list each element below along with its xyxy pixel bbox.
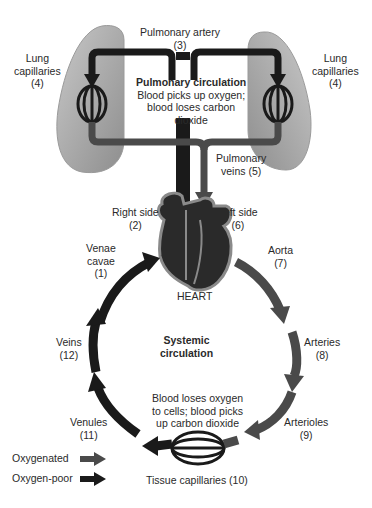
label-pulmonary-artery: Pulmonary artery (3) [140, 26, 220, 51]
label-number: (2) [112, 219, 159, 232]
systemic-heading-line: circulation [160, 347, 213, 360]
legend-oxygen-poor-arrow-icon [80, 472, 106, 486]
label-lung-capillaries-left: Lung capillaries (4) [14, 52, 61, 90]
arrow-arterioles-icon [244, 420, 260, 440]
label-arteries: Arteries (8) [304, 336, 340, 361]
systemic-circulation-caption: Blood loses oxygen to cells; blood picks… [152, 392, 243, 430]
label-aorta: Aorta (7) [268, 244, 293, 269]
pulmonary-description-line: dioxide [136, 114, 246, 127]
label-text: capillaries [312, 65, 359, 78]
label-text: Venae [86, 242, 116, 255]
label-number: (6) [218, 219, 258, 232]
systemic-circulation-heading: Systemic circulation [160, 334, 213, 359]
systemic-description-line: Blood loses oxygen [152, 392, 243, 405]
heart-label: HEART [177, 290, 212, 303]
label-text: Pulmonary artery [140, 26, 220, 39]
legend-oxygenated-arrow-icon [80, 452, 106, 466]
label-text: cavae [86, 255, 116, 268]
label-text: Venules [70, 416, 107, 429]
label-venules: Venules (11) [70, 416, 107, 441]
label-number: (1) [86, 267, 116, 280]
label-lung-capillaries-right: Lung capillaries (4) [312, 52, 359, 90]
label-number: (3) [140, 39, 220, 52]
label-number: (8) [304, 349, 340, 362]
legend-label: Oxygenated [12, 452, 69, 464]
legend-oxygenated: Oxygenated [12, 452, 69, 464]
label-text: Lung [312, 52, 359, 65]
left-lung-icon [57, 26, 124, 173]
legend-oxygen-poor: Oxygen-poor [12, 472, 73, 484]
arrow-venules-icon [142, 436, 158, 456]
label-text: Arterioles [284, 416, 328, 429]
label-number: (9) [284, 429, 328, 442]
pulmonary-heading: Pulmonary circulation [136, 76, 246, 89]
label-number: (7) [268, 257, 293, 270]
systemic-description-line: up carbon dioxide [152, 417, 243, 430]
label-text: Arteries [304, 336, 340, 349]
label-number: (11) [70, 429, 107, 442]
label-text: Aorta [268, 244, 293, 257]
label-left-side: Left side (6) [218, 206, 258, 231]
label-right-side: Right side (2) [112, 206, 159, 231]
legend-label: Oxygen-poor [12, 472, 73, 484]
arrow-arteries-icon [284, 374, 304, 392]
label-text: Left side [218, 206, 258, 219]
label-text: Lung [14, 52, 61, 65]
label-arterioles: Arterioles (9) [284, 416, 328, 441]
label-text: capillaries [14, 65, 61, 78]
arrow-veins-lower-icon [88, 372, 106, 392]
label-text: veins (5) [216, 165, 266, 178]
tissue-capillaries-icon [172, 432, 224, 464]
label-text: Pulmonary [216, 152, 266, 165]
systemic-heading-line: Systemic [160, 334, 213, 347]
pulmonary-description-line: Blood picks up oxygen; [136, 89, 246, 102]
pulmonary-circulation-caption: Pulmonary circulation Blood picks up oxy… [136, 76, 246, 126]
label-text: Veins [56, 336, 82, 349]
label-veins: Veins (12) [56, 336, 82, 361]
pulmonary-description-line: blood loses carbon [136, 101, 246, 114]
label-pulmonary-veins: Pulmonary veins (5) [216, 152, 266, 177]
label-number: (4) [312, 77, 359, 90]
arrow-aorta-icon [270, 306, 290, 324]
label-number: (4) [14, 77, 61, 90]
systemic-description-line: to cells; blood picks [152, 405, 243, 418]
label-text: Right side [112, 206, 159, 219]
label-venae-cavae: Venae cavae (1) [86, 242, 116, 280]
label-number: (12) [56, 349, 82, 362]
label-tissue-capillaries: Tissue capillaries (10) [146, 474, 248, 487]
